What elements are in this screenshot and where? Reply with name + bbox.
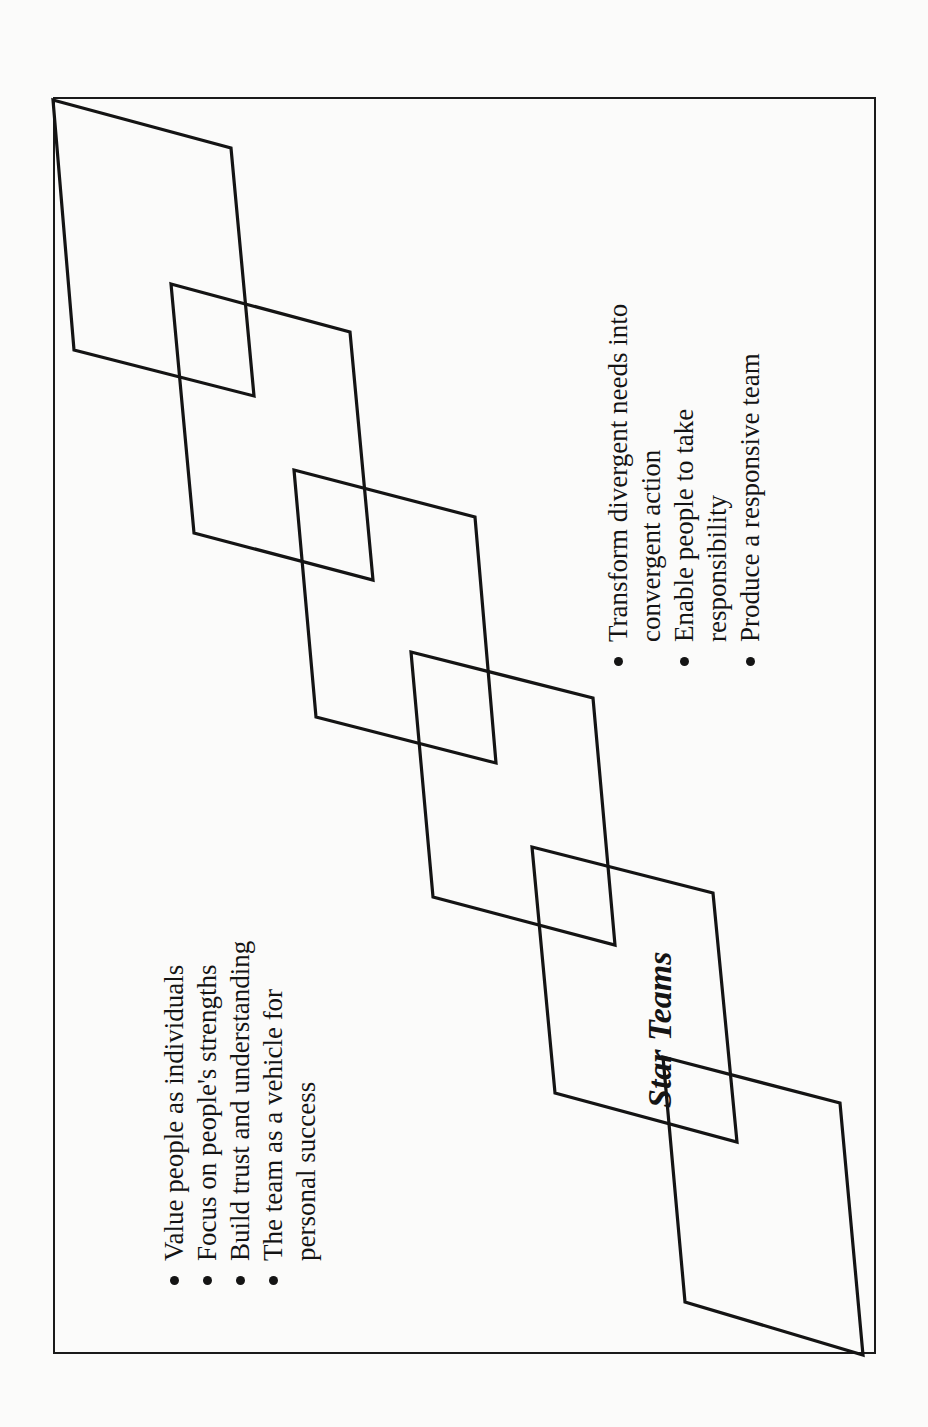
parallelogram-6 <box>663 1057 863 1355</box>
list-item-text: The team as a vehicle for <box>257 941 290 1261</box>
list-item-text-continued: responsibility <box>701 304 734 642</box>
list-item-text: Build trust and understanding <box>224 941 257 1261</box>
list-item: Produce a responsive team <box>734 304 767 666</box>
bullet-icon <box>680 657 689 666</box>
list-item: Build trust and understanding <box>224 941 257 1285</box>
bullet-icon <box>746 657 755 666</box>
parallelogram-chain <box>0 0 928 1427</box>
diagram-title: Star Teams <box>640 951 680 1108</box>
list-item-text: Value people as individuals <box>158 941 191 1261</box>
list-item: The team as a vehicle for personal succe… <box>257 941 323 1285</box>
parallelogram-1 <box>53 100 254 396</box>
bullet-icon <box>236 1276 245 1285</box>
list-item-text: Enable people to take <box>668 304 701 642</box>
list-item: Focus on people's strengths <box>191 941 224 1285</box>
list-item: Value people as individuals <box>158 941 191 1285</box>
list-item-text: Produce a responsive team <box>734 304 767 642</box>
bullet-icon <box>203 1276 212 1285</box>
bullet-icon <box>170 1276 179 1285</box>
parallelogram-3 <box>294 470 496 763</box>
list-item: Transform divergent needs into convergen… <box>602 304 668 666</box>
list-item-text: Transform divergent needs into <box>602 304 635 642</box>
left-bullet-list: Value people as individuals Focus on peo… <box>158 941 323 1285</box>
list-item-text-continued: personal success <box>290 941 323 1261</box>
list-item-text-continued: convergent action <box>635 304 668 642</box>
parallelogram-5 <box>532 847 737 1142</box>
parallelogram-4 <box>411 652 615 945</box>
list-item-text: Focus on people's strengths <box>191 941 224 1261</box>
parallelogram-2 <box>171 284 373 580</box>
right-bullet-list: Transform divergent needs into convergen… <box>602 304 767 666</box>
list-item: Enable people to take responsibility <box>668 304 734 666</box>
bullet-icon <box>614 657 623 666</box>
bullet-icon <box>269 1276 278 1285</box>
